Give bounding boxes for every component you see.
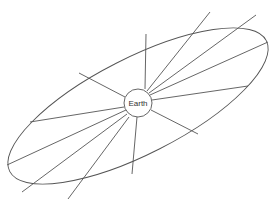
radial-line — [151, 110, 198, 134]
radial-line — [150, 42, 268, 95]
earth-node: Earth — [124, 89, 152, 117]
radial-line — [147, 12, 210, 91]
orbit-diagram: Earth — [0, 0, 276, 203]
radial-line — [79, 73, 125, 97]
radial-line — [149, 15, 256, 93]
radial-line — [7, 110, 126, 165]
earth-label: Earth — [128, 99, 147, 108]
radial-line — [30, 107, 124, 122]
radial-line — [145, 34, 146, 89]
radial-line — [132, 117, 137, 174]
radial-line — [68, 117, 129, 199]
